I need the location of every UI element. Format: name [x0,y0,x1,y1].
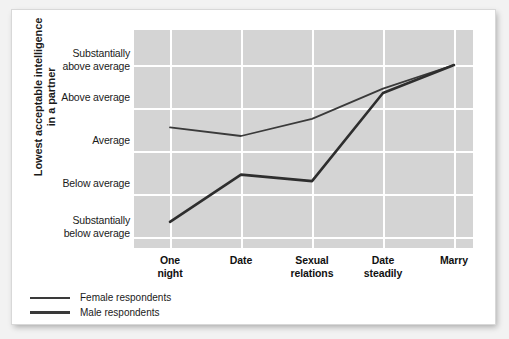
figure-inner: Lowest acceptable intelligence in a part… [12,10,495,324]
legend-item-male: Male respondents [24,305,254,320]
plot-area [134,30,473,248]
y-tick-label-above-average: Above average [38,91,130,104]
female-line-swatch [30,297,70,299]
legend-label-female: Female respondents [80,290,171,305]
y-tick-label-average: Average [38,134,130,147]
y-tick-label-substantially-below-average: Substantially below average [38,214,130,239]
figure-frame: Lowest acceptable intelligence in a part… [12,10,495,324]
figure-card: Lowest acceptable intelligence in a part… [0,0,509,339]
legend-label-male: Male respondents [80,305,160,320]
line-series-male [170,65,454,222]
male-line-swatch [30,311,70,314]
line-series-female [170,65,454,136]
y-tick-label-below-average: Below average [38,177,130,190]
data-lines [134,30,473,248]
y-tick-label-substantially-above-average: Substantially above average [38,47,130,72]
y-axis-tick-labels: Substantially above average Above averag… [38,30,130,248]
x-axis-tick-labels: One night Date Sexual relations Date ste… [134,254,473,288]
x-tick-label-marry: Marry [409,254,499,267]
legend-item-female: Female respondents [24,290,254,305]
chart-legend: Female respondents Male respondents [24,290,254,320]
